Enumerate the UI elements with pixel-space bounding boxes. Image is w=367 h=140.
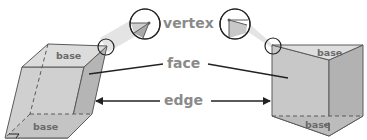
left-top-base-label: base — [56, 50, 81, 61]
prism-diagram: base base — [0, 0, 367, 140]
left-oblique-prism: base base — [5, 9, 160, 138]
face-label: face — [167, 55, 200, 71]
vertex-label: vertex — [163, 15, 214, 31]
right-top-base-label: base — [317, 47, 342, 58]
right-triangular-prism: base base — [220, 9, 363, 136]
left-vertex-magnifier — [130, 9, 160, 39]
edge-label: edge — [164, 92, 203, 108]
left-bottom-base-label: base — [33, 121, 58, 132]
right-bottom-base-label: base — [305, 119, 330, 130]
right-vertex-magnifier — [220, 9, 250, 39]
